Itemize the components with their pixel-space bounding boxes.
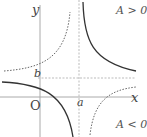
curve-negative-upper-branch — [4, 12, 70, 71]
origin-label: O — [30, 99, 41, 112]
x-axis-label: x — [131, 91, 138, 104]
plot-canvas — [0, 0, 147, 137]
case-negative-label: A < 0 — [116, 119, 147, 130]
asymptote-a-label: a — [77, 97, 84, 108]
y-axis-label: y — [32, 3, 39, 16]
asymptote-b-label: b — [34, 68, 41, 79]
hyperbola-diagram: y x O a b A > 0 A < 0 — [0, 0, 147, 137]
case-positive-label: A > 0 — [116, 5, 147, 16]
